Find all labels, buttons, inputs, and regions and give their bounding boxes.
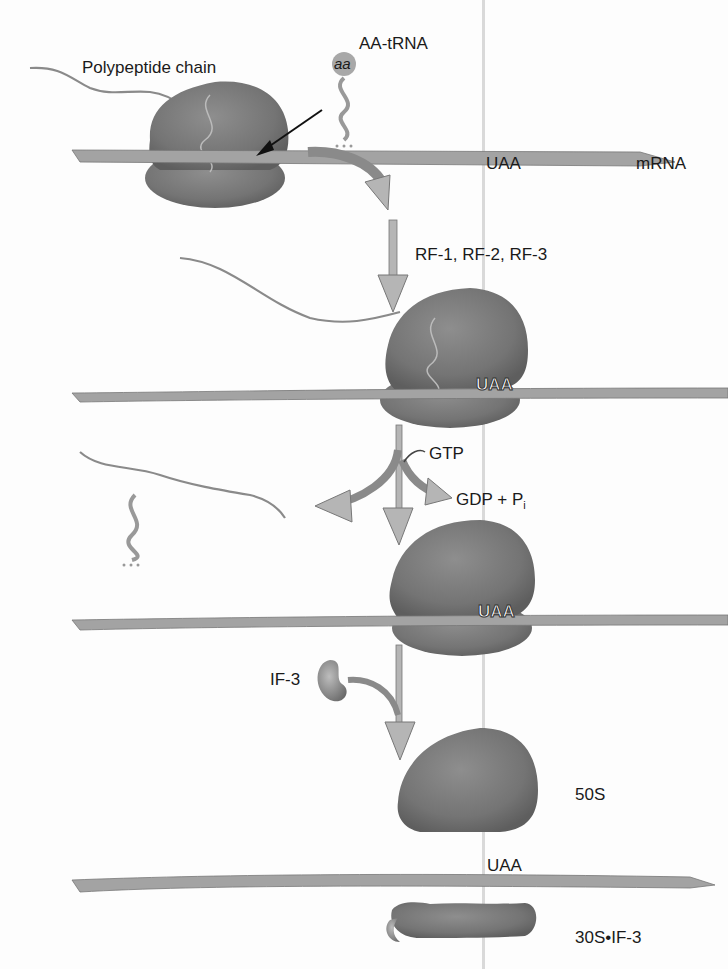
uaa-label-3: UAA — [478, 602, 515, 622]
diagram-graphics — [0, 0, 728, 969]
gtp-label: GTP — [429, 444, 464, 464]
aa-trna-label: AA-tRNA — [359, 34, 428, 54]
uaa-label-2: UAA — [476, 375, 513, 395]
release-factors-label: RF-1, RF-2, RF-3 — [415, 245, 547, 265]
uaa-label-4: UAA — [487, 856, 522, 876]
termination-diagram: Polypeptide chain AA-tRNA aa UAA mRNA RF… — [0, 0, 728, 969]
30s-if3-label: 30S•IF-3 — [575, 928, 641, 948]
50s-label: 50S — [575, 785, 605, 805]
polypeptide-chain-label: Polypeptide chain — [82, 58, 216, 78]
mrna-label: mRNA — [636, 154, 686, 174]
if3-label: IF-3 — [270, 670, 300, 690]
gdp-pi-label: GDP + Pi — [456, 490, 526, 511]
aa-label: aa — [334, 55, 351, 72]
uaa-label-1: UAA — [486, 154, 521, 174]
